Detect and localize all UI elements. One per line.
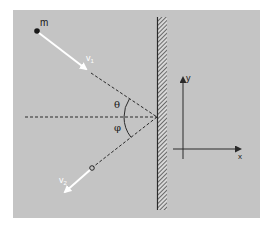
reflection-diagram: m v1 v2 θ φ y x bbox=[0, 0, 273, 227]
mass-label: m bbox=[40, 17, 48, 28]
mass-point bbox=[34, 28, 40, 34]
theta-label: θ bbox=[114, 99, 120, 110]
x-axis-label: x bbox=[238, 152, 242, 161]
y-axis-label: y bbox=[186, 73, 191, 83]
phi-label: φ bbox=[114, 122, 121, 133]
wall bbox=[157, 17, 167, 210]
